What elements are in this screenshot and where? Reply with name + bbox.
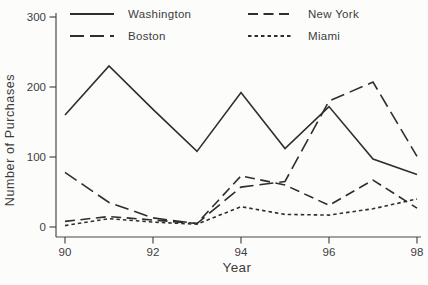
purchases-line-chart-figure: Number of Purchases Year 010020030090929… xyxy=(0,0,428,285)
legend-label-boston: Boston xyxy=(128,30,166,42)
x-tick-label: 94 xyxy=(235,246,248,258)
legend: WashingtonBostonNew YorkMiami xyxy=(70,8,359,42)
x-tick-label: 96 xyxy=(323,246,336,258)
series-line-miami xyxy=(65,199,417,226)
legend-label-washington: Washington xyxy=(128,8,191,20)
y-axis-title: Number of Purchases xyxy=(3,74,17,206)
series-line-new-york xyxy=(65,176,417,224)
y-tick-label: 200 xyxy=(27,81,46,93)
x-tick-label: 90 xyxy=(59,246,72,258)
series-lines xyxy=(65,66,417,226)
x-tick-label: 98 xyxy=(411,246,424,258)
chart-canvas: Number of Purchases Year 010020030090929… xyxy=(0,0,428,285)
axes: 01002003009092949698 xyxy=(27,11,424,258)
y-tick-label: 300 xyxy=(27,11,46,23)
series-line-washington xyxy=(65,66,417,175)
y-tick-label: 0 xyxy=(40,221,46,233)
x-tick-label: 92 xyxy=(147,246,160,258)
legend-label-new-york: New York xyxy=(308,8,359,20)
y-tick-label: 100 xyxy=(27,151,46,163)
series-line-boston xyxy=(65,82,417,223)
legend-label-miami: Miami xyxy=(308,30,340,42)
x-axis-title: Year xyxy=(223,260,252,275)
